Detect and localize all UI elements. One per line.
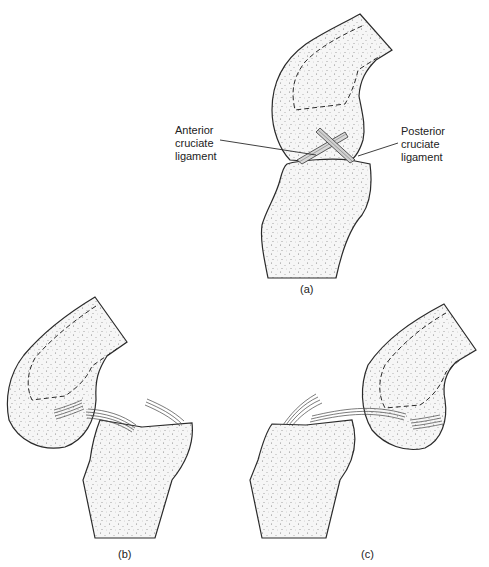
panel-c (250, 304, 476, 538)
label-anterior-cruciate-ligament: Anterior cruciate ligament (175, 124, 217, 163)
tibia-a (261, 159, 371, 278)
femur-c (362, 304, 476, 449)
caption-c: (c) (361, 548, 374, 560)
knee-ligament-diagram (0, 0, 489, 567)
caption-b: (b) (118, 548, 131, 560)
tibia-c (250, 420, 355, 538)
caption-a: (a) (300, 283, 313, 295)
label-posterior-cruciate-ligament: Posterior cruciate ligament (401, 125, 445, 164)
label-line: cruciate (401, 138, 445, 151)
label-line: ligament (175, 150, 217, 163)
label-line: ligament (401, 151, 445, 164)
label-line: Anterior (175, 124, 217, 137)
panel-b (7, 297, 192, 538)
panel-a (220, 14, 398, 278)
leader-line-posterior (358, 143, 398, 156)
tibia-b (83, 420, 192, 538)
label-line: cruciate (175, 137, 217, 150)
label-line: Posterior (401, 125, 445, 138)
